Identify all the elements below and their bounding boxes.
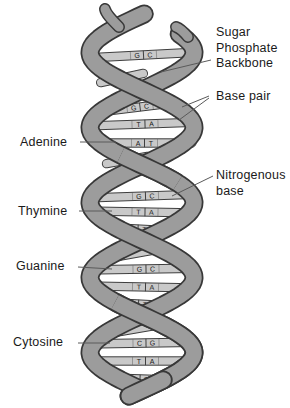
cytosine-label: Cytosine xyxy=(13,335,63,351)
base-letter-right: A xyxy=(149,209,154,216)
base-letter-right: C xyxy=(149,192,154,199)
base-pair-label: Base pair xyxy=(216,89,271,105)
guanine-label: Guanine xyxy=(16,259,65,275)
base-letter-right: A xyxy=(149,120,154,127)
base-letter-left: G xyxy=(136,193,142,200)
base-letter-left: G xyxy=(137,266,143,273)
base-letter-right: A xyxy=(150,358,155,365)
base-letter-left: A xyxy=(136,140,141,147)
thymine-label: Thymine xyxy=(18,204,67,220)
base-letter-right: C xyxy=(144,103,150,111)
base-letter-right: A xyxy=(150,284,155,291)
base-letter-right: G xyxy=(150,339,156,346)
base-letter-right: C xyxy=(150,265,155,272)
adenine-label: Adenine xyxy=(20,135,67,151)
sugar-phosphate-backbone-label: Sugar Phosphate Backbone xyxy=(216,25,278,72)
base-letter-right: T xyxy=(149,140,154,147)
base-letter-right: C xyxy=(147,51,152,58)
base-letter-left: T xyxy=(137,358,142,365)
base-pair-rung: GC xyxy=(96,48,191,61)
dna-diagram: GCGCTAATGCTAATGCTAATCGTAAT Sugar Phospha… xyxy=(0,0,290,408)
nitrogenous-base-label: Nitrogenous base xyxy=(216,168,286,199)
base-letter-left: C xyxy=(137,340,142,347)
base-letter-left: G xyxy=(134,52,140,59)
